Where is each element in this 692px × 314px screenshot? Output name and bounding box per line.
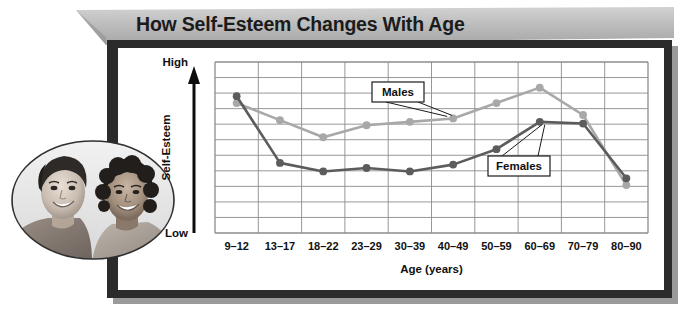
data-point — [493, 145, 501, 153]
data-point — [319, 133, 327, 141]
y-axis: HighLowSelf-Esteem — [160, 56, 200, 239]
callout-males: Males — [372, 82, 452, 116]
data-point — [622, 174, 630, 182]
x-axis-tick-label: 23–29 — [351, 240, 382, 252]
data-point — [406, 118, 414, 126]
y-axis-title: Self-Esteem — [160, 115, 172, 181]
data-point — [363, 121, 371, 129]
x-axis-tick-label: 40–49 — [438, 240, 469, 252]
data-point — [449, 161, 457, 169]
page-title: How Self-Esteem Changes With Age — [136, 13, 465, 36]
data-point — [536, 84, 544, 92]
data-point — [493, 99, 501, 107]
callout-label: Males — [382, 86, 414, 98]
x-axis-tick-label: 18–22 — [308, 240, 339, 252]
data-point — [536, 118, 544, 126]
data-point — [233, 92, 241, 100]
data-point — [406, 168, 414, 176]
x-axis-tick-label: 50–59 — [481, 240, 512, 252]
x-axis-tick-label: 30–39 — [395, 240, 426, 252]
data-point — [319, 168, 327, 176]
x-axis-tick-label: 60–69 — [524, 240, 555, 252]
data-point — [276, 116, 284, 124]
chart-gridlines — [215, 62, 648, 233]
y-axis-low-label: Low — [165, 227, 188, 239]
data-point — [449, 115, 457, 123]
data-point — [579, 120, 587, 128]
x-axis-tick-label: 13–17 — [265, 240, 296, 252]
data-point — [276, 159, 284, 167]
x-axis-tick-label: 70–79 — [568, 240, 599, 252]
figure-page: How Self-Esteem Changes With Age — [0, 0, 692, 314]
callout-label: Females — [496, 160, 542, 172]
y-axis-high-label: High — [162, 56, 188, 68]
data-point — [579, 111, 587, 119]
data-point — [363, 164, 371, 172]
line-chart: HighLowSelf-Esteem9–1213–1718–2223–2930–… — [118, 48, 664, 290]
data-point — [622, 181, 630, 189]
x-axis-tick-label: 80–90 — [611, 240, 642, 252]
x-axis-tick-label: 9–12 — [224, 240, 248, 252]
x-axis-title: Age (years) — [400, 263, 463, 275]
x-axis: 9–1213–1718–2223–2930–3940–4950–5960–697… — [224, 240, 641, 275]
